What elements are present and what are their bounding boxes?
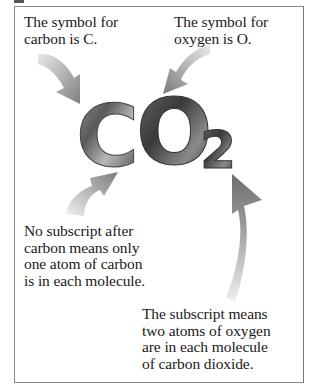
subscript-two: 2	[200, 120, 236, 180]
caption-oxygen-symbol: The symbol for oxygen is O.	[174, 14, 268, 47]
formula-co2: C O 2	[76, 80, 236, 186]
caption-subscript-meaning: The subscript means two atoms of oxygen …	[142, 306, 271, 372]
caption-no-subscript: No subscript after carbon means only one…	[24, 223, 145, 289]
element-carbon: C	[76, 86, 139, 186]
arrow-to-subscript-icon	[226, 174, 262, 302]
caption-carbon-symbol: The symbol for carbon is C.	[24, 14, 118, 47]
arrow-to-carbon-icon	[38, 54, 80, 104]
